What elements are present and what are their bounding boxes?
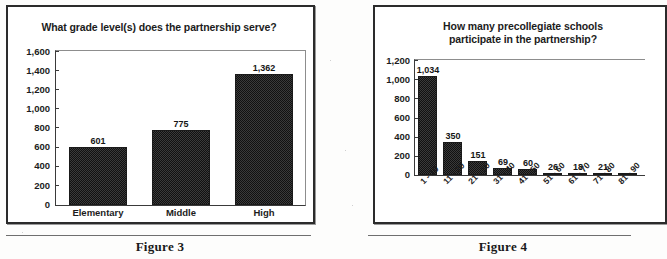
ytick-label: 0 (0, 199, 50, 210)
xcat-label: High (253, 207, 274, 218)
bar-1-10 (418, 76, 437, 175)
ytick-label: 200 (368, 150, 410, 161)
ytick-label: 1,400 (0, 65, 50, 76)
bar-value-label: 151 (470, 150, 485, 160)
ytick-label: 1,000 (0, 103, 50, 114)
figure-4-bars: 1,034 350 151 69 60 26 18 21 (415, 60, 645, 175)
bar-value-label: 1,034 (417, 65, 440, 75)
ytick-label: 400 (368, 131, 410, 142)
figure-4-title-line-2: participate in the partnership? (408, 33, 638, 46)
scan-speckle (345, 150, 346, 151)
figure-3: What grade level(s) does the partnership… (0, 0, 320, 259)
caption-rule (6, 235, 311, 236)
ytick-label: 1,600 (0, 46, 50, 57)
ytick-label: 1,200 (0, 84, 50, 95)
figure-4-caption: Figure 4 (443, 239, 563, 255)
ytick-label: 800 (0, 122, 50, 133)
bar-value-label: 775 (173, 119, 188, 129)
figure-3-caption: Figure 3 (0, 239, 320, 255)
figure-3-chart-title: What grade level(s) does the partnership… (14, 21, 304, 34)
ytick-label: 1,200 (368, 55, 410, 66)
figure-4-chart-title: How many precollegiate schools participa… (408, 20, 638, 45)
ytick-label: 400 (0, 160, 50, 171)
bar-high (235, 74, 293, 205)
figure-4-plot-area: 1,034 350 151 69 60 26 18 21 (414, 59, 645, 176)
ytick-label: 0 (368, 169, 410, 180)
bar-middle (152, 130, 210, 205)
bar-value-label: 601 (90, 136, 105, 146)
figure-3-plot-area: 601 775 1,362 (55, 50, 306, 206)
caption-rule (368, 235, 631, 236)
scan-speckle (22, 232, 23, 233)
figure-4-title-line-1: How many precollegiate schools (408, 20, 638, 33)
ytick-label: 600 (0, 141, 50, 152)
ytick-label: 800 (368, 93, 410, 104)
xcat-label: Middle (166, 207, 196, 218)
scan-speckle (330, 60, 331, 61)
ytick-label: 1,000 (368, 74, 410, 85)
bar-elementary (69, 147, 127, 205)
bar-value-label: 1,362 (253, 63, 276, 73)
bar-value-label: 350 (445, 131, 460, 141)
ytick-label: 200 (0, 180, 50, 191)
scan-speckle (352, 205, 353, 206)
figure-3-bars: 601 775 1,362 (56, 51, 305, 205)
ytick-label: 600 (368, 112, 410, 123)
figure-4: How many precollegiate schools participa… (368, 0, 631, 259)
xcat-label: Elementary (72, 207, 123, 218)
